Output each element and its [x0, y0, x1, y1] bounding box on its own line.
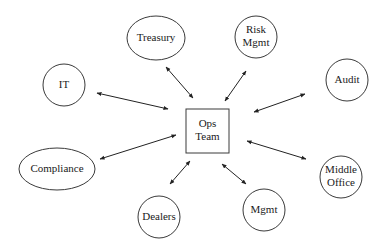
node-risk: RiskMgmt — [235, 16, 277, 58]
ops-team-label: Ops — [199, 117, 217, 129]
bidirectional-arrow-risk — [225, 71, 246, 101]
node-it: IT — [43, 64, 85, 106]
ops-team-label: Team — [195, 130, 220, 142]
mgmt-label: Mgmt — [251, 203, 278, 215]
node-treasury: Treasury — [127, 16, 185, 60]
audit-label: Audit — [334, 73, 359, 85]
middle-office-label: Middle — [325, 163, 357, 175]
node-audit: Audit — [326, 59, 368, 101]
middle-office-label: Office — [327, 176, 355, 188]
compliance-label: Compliance — [30, 162, 83, 174]
bidirectional-arrow-mgmt — [222, 164, 246, 184]
risk-label: Mgmt — [243, 36, 270, 48]
bidirectional-arrow-audit — [254, 94, 305, 112]
bidirectional-arrow-it — [97, 93, 168, 109]
node-compliance: Compliance — [19, 148, 95, 190]
bidirectional-arrow-dealers — [170, 161, 190, 184]
ops-team-relationship-diagram: TreasuryRiskMgmtITAuditComplianceMiddleO… — [0, 0, 383, 250]
treasury-label: Treasury — [137, 31, 176, 43]
risk-label: Risk — [246, 23, 267, 35]
node-dealers: Dealers — [138, 196, 180, 238]
bidirectional-arrow-compliance — [100, 135, 176, 159]
bidirectional-arrow-treasury — [166, 67, 193, 98]
node-middle-office: MiddleOffice — [320, 156, 362, 198]
dealers-label: Dealers — [142, 210, 176, 222]
node-mgmt: Mgmt — [243, 189, 285, 231]
it-label: IT — [59, 78, 70, 90]
bidirectional-arrow-middle-office — [247, 141, 306, 159]
center-node-ops-team: OpsTeam — [186, 109, 229, 153]
